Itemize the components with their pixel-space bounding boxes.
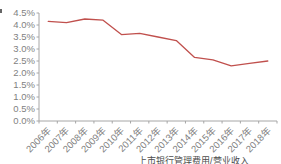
y-axis-tick-label: 3.0% [13, 43, 35, 54]
y-axis-tick-label: 4.5% [13, 7, 35, 18]
y-axis-tick-label: 4.0% [13, 19, 35, 30]
data-line [48, 19, 268, 66]
chart-container: 4.5%4.0%3.5%3.0%2.5%2.0%1.5%1.0%0.5%0.0%… [0, 0, 281, 164]
y-axis-tick-label: 1.0% [13, 91, 35, 102]
y-axis-tick-label: 2.5% [13, 55, 35, 66]
y-axis-tick-label: 0.5% [13, 103, 35, 114]
chart-caption-clipped: 上市银行管理费用/营业收入 [138, 156, 249, 164]
y-axis-tick-label: 2.0% [13, 67, 35, 78]
y-axis-tick-label: 0.0% [13, 115, 35, 126]
axis-lines [39, 13, 277, 121]
y-axis-tick-label: 3.5% [13, 31, 35, 42]
y-axis-tick-label: 1.5% [13, 79, 35, 90]
line-chart: 4.5%4.0%3.5%3.0%2.5%2.0%1.5%1.0%0.5%0.0%… [0, 0, 281, 164]
clipped-edge-artifact [0, 9, 2, 13]
